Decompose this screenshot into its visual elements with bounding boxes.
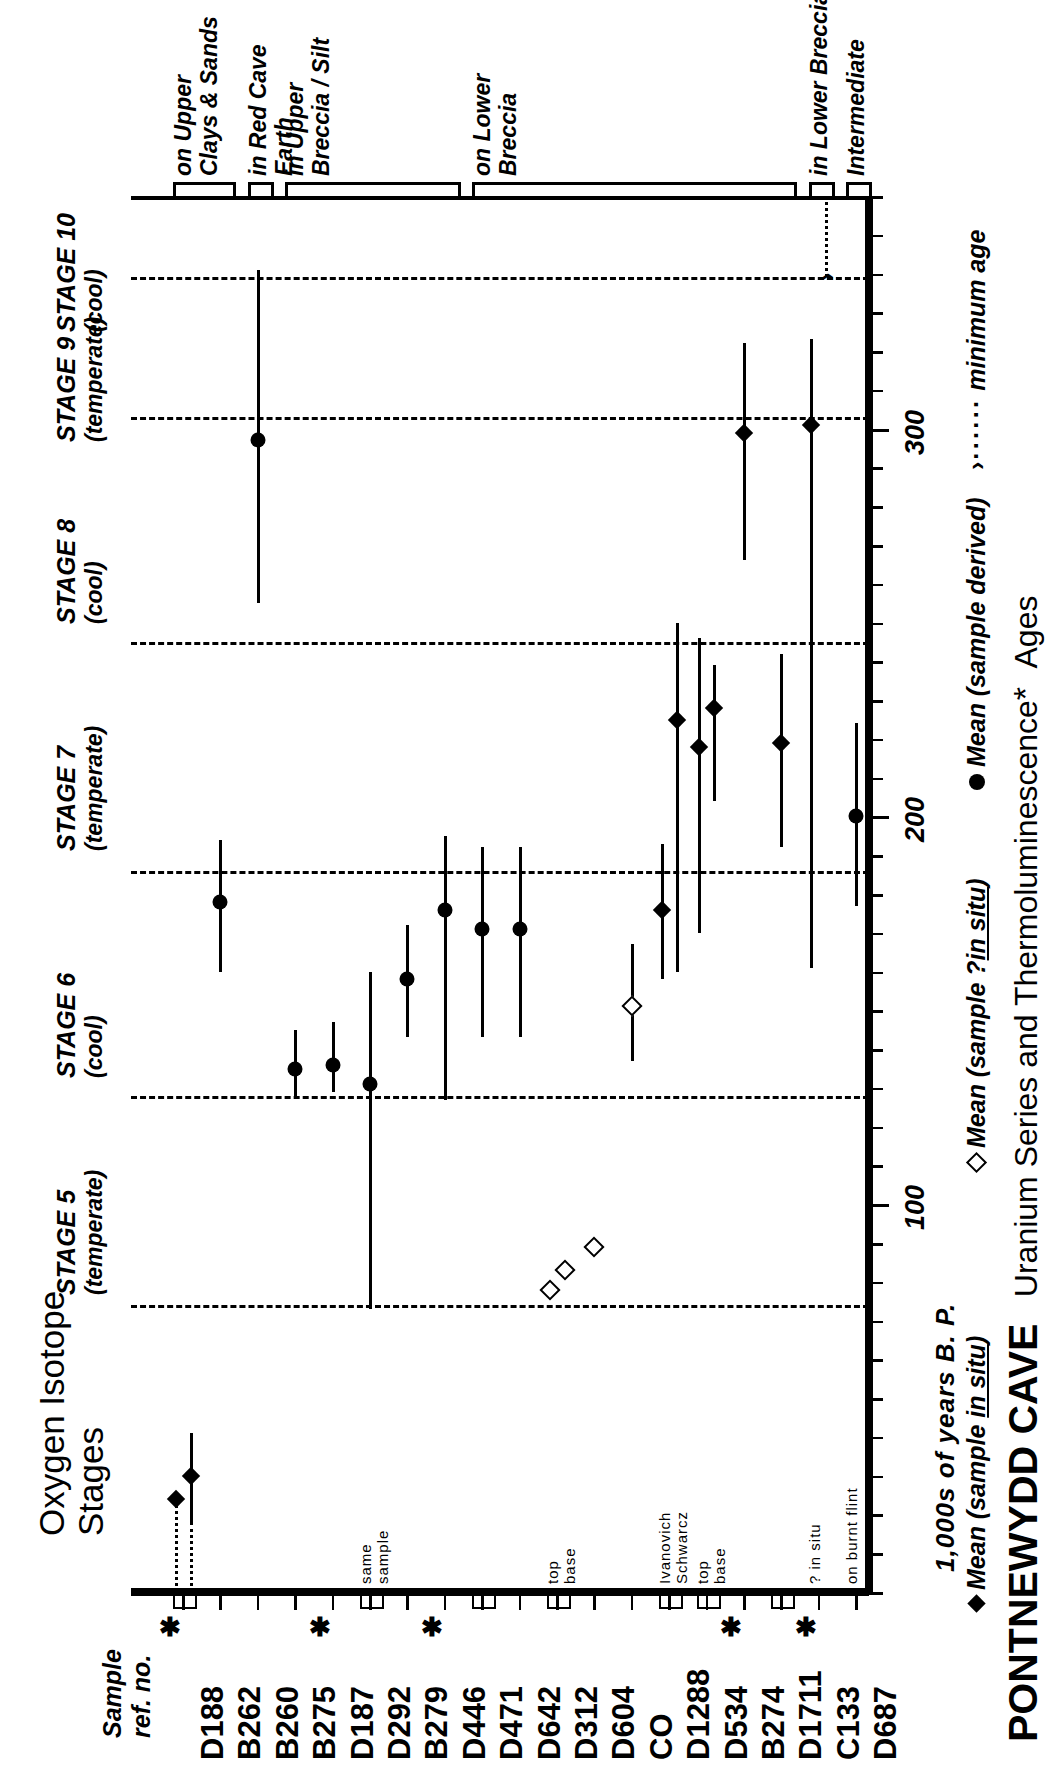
data-marker-open-diamond [539, 1279, 560, 1300]
sample-label[interactable]: D1288 [681, 1669, 717, 1760]
chart-title-asterisk: * [1006, 687, 1044, 700]
sample-label[interactable]: B260 [270, 1686, 306, 1760]
data-marker-open-diamond [554, 1260, 575, 1281]
age-tick-label: 100 [900, 1185, 931, 1230]
sample-annotation: Ivanovich [656, 1512, 673, 1584]
data-marker-filled-circle [849, 809, 864, 824]
sample-label[interactable]: D312 [569, 1686, 605, 1760]
stage-label: STAGE 7(temperate) [52, 726, 108, 851]
sample-tick [219, 1594, 222, 1610]
data-marker-filled-diamond [705, 699, 723, 717]
data-marker-open-diamond [584, 1236, 605, 1257]
stage-name: STAGE 10 [52, 213, 81, 332]
unit-label-line: Clays & Sands [197, 16, 223, 176]
sample-tick [294, 1594, 297, 1610]
sample-ref-line2: ref. no. [127, 1649, 156, 1738]
unit-label-line: on Lower [470, 74, 496, 176]
age-tick [869, 1592, 883, 1595]
data-marker-filled-circle [512, 921, 527, 936]
data-marker-filled-diamond [652, 900, 670, 918]
legend-item: Mean (sample derived) [962, 497, 991, 790]
stratigraphic-unit-brackets [131, 178, 869, 198]
unit-label-line: in Lower Breccia [807, 0, 833, 176]
data-marker-filled-diamond [772, 734, 790, 752]
stage-climate: (temperate) [81, 726, 108, 851]
unit-label-line: on Upper [171, 16, 197, 176]
stage-boundary-line [131, 277, 869, 280]
range-bar [481, 847, 484, 1037]
legend-item: Mean (sample in situ) [962, 1336, 991, 1610]
thermoluminescence-asterisk: ✱ [159, 1614, 181, 1640]
sample-tick [743, 1594, 746, 1610]
sample-annotation: Schwarcz [673, 1511, 690, 1584]
range-bar-dotted [175, 1499, 178, 1592]
sample-label[interactable]: D687 [868, 1686, 904, 1760]
stage-boundary-line [131, 1305, 869, 1308]
sample-label[interactable]: B274 [756, 1686, 792, 1760]
stage-name: STAGE 5 [52, 1170, 81, 1295]
sample-annotation: base [561, 1547, 578, 1584]
age-tick-label: 200 [900, 797, 931, 842]
data-marker-filled-circle [325, 1057, 340, 1072]
thermoluminescence-asterisk: ✱ [720, 1614, 742, 1640]
legend-label: Mean (sample derived) [962, 497, 991, 767]
range-bar [698, 638, 701, 933]
legend-label: Mean (sample ?in situ) [962, 879, 991, 1149]
stage-name: STAGE 8 [52, 519, 81, 624]
range-bar [519, 847, 522, 1037]
age-axis-spine [869, 196, 873, 1592]
legend-item: ›······minimum age [962, 230, 991, 470]
sample-label[interactable]: D604 [606, 1686, 642, 1760]
unit-bracket [248, 182, 274, 199]
thermoluminescence-asterisk: ✱ [795, 1614, 817, 1640]
paired-sample-bracket [547, 1596, 571, 1609]
sample-label[interactable]: D446 [457, 1686, 493, 1760]
paired-sample-bracket [771, 1596, 795, 1609]
sample-label[interactable]: D534 [719, 1686, 755, 1760]
unit-label: in UpperBreccia / Silt [283, 38, 335, 176]
data-marker-filled-diamond [690, 737, 708, 755]
unit-label: Intermediate [844, 39, 870, 176]
stage-boundary-line [131, 417, 869, 420]
sample-label[interactable]: D188 [195, 1686, 231, 1760]
stage-label: STAGE 10(cool) [52, 213, 108, 332]
sample-annotation: ? in situ [806, 1523, 823, 1584]
legend-filled-circle-icon [969, 774, 985, 790]
data-marker-filled-diamond [735, 423, 753, 441]
legend-filled-diamond-icon [967, 1594, 985, 1612]
sample-ref-heading: Sample ref. no. [98, 1649, 156, 1738]
sample-label[interactable]: B275 [307, 1686, 343, 1760]
stage-boundary-line [131, 642, 869, 645]
sample-label[interactable]: B279 [419, 1686, 455, 1760]
unit-label: in Lower Breccia [807, 0, 833, 176]
chart-title-main: PONTNEWYDD CAVE [1000, 1324, 1046, 1742]
unit-label: on UpperClays & Sands [171, 16, 223, 176]
sample-label[interactable]: D471 [494, 1686, 530, 1760]
range-bar-dotted [190, 1522, 193, 1592]
thermoluminescence-asterisk: ✱ [421, 1614, 443, 1640]
unit-bracket [472, 182, 797, 199]
sample-label[interactable]: D642 [532, 1686, 568, 1760]
legend-label: minimum age [962, 230, 991, 391]
sample-tick [818, 1594, 821, 1610]
sample-label[interactable]: B262 [232, 1686, 268, 1760]
plot-area: › [131, 196, 869, 1592]
legend-minimum-age-arrow-icon: ›······ [964, 398, 989, 470]
stage-boundary-line [131, 1096, 869, 1099]
data-marker-filled-circle [400, 972, 415, 987]
sample-label[interactable]: D187 [345, 1686, 381, 1760]
sample-tick [332, 1594, 335, 1610]
sample-tick [257, 1594, 260, 1610]
chart-title-sub: Uranium Series and Thermoluminescence [1008, 700, 1044, 1297]
sample-annotation: same [357, 1543, 374, 1584]
sample-label[interactable]: D1711 [793, 1670, 829, 1760]
range-bar [676, 623, 679, 972]
sample-label[interactable]: C133 [831, 1686, 867, 1760]
sample-label[interactable]: D292 [382, 1686, 418, 1760]
sample-label[interactable]: CO [644, 1714, 680, 1761]
unit-label-line: Intermediate [844, 39, 870, 176]
sample-annotation: top [694, 1560, 711, 1584]
stage-boundary-line [131, 871, 869, 874]
stage-label: STAGE 5(temperate) [52, 1170, 108, 1295]
range-bar [369, 972, 372, 1309]
